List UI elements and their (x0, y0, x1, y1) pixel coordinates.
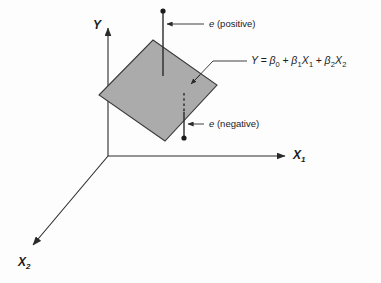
axis-label-x2-text: X (18, 255, 26, 269)
equation-plus-1: + (280, 54, 291, 66)
axis-label-x2-subscript: 2 (26, 262, 30, 271)
equation-plus-2: + (313, 54, 324, 66)
equation-x1: X (302, 54, 309, 66)
axis-label-y-text: Y (93, 18, 101, 32)
equation-beta2: β (325, 54, 331, 66)
annotation-plane-equation: Y=β0+β1X1+β2X2 (251, 55, 346, 66)
axis-label-x2: X2 (18, 256, 30, 268)
equation-beta1-subscript: 1 (297, 60, 301, 69)
equation-x2-subscript: 2 (342, 60, 346, 69)
equation-beta0-subscript: 0 (276, 60, 280, 69)
figure-canvas (0, 0, 381, 283)
annotation-error-negative: e (negative) (209, 119, 259, 129)
equation-beta0: β (269, 54, 275, 66)
equation-x1-subscript: 1 (309, 60, 313, 69)
regression-plane-figure: Y X1 X2 e (positive) e (negative) Y=β0+β… (0, 0, 381, 283)
axis-label-x1-subscript: 1 (301, 155, 305, 164)
annotation-error-positive-text: (positive) (214, 18, 255, 29)
axis-label-x1-text: X (293, 148, 301, 162)
axis-x2 (33, 156, 108, 245)
axis-label-y: Y (93, 19, 101, 31)
annotation-error-positive: e (positive) (209, 19, 255, 29)
axis-label-x1: X1 (293, 149, 305, 161)
equation-beta2-subscript: 2 (331, 60, 335, 69)
equation-equals: = (258, 54, 269, 66)
annotation-error-negative-text: (negative) (214, 118, 259, 129)
regression-plane (99, 40, 217, 141)
